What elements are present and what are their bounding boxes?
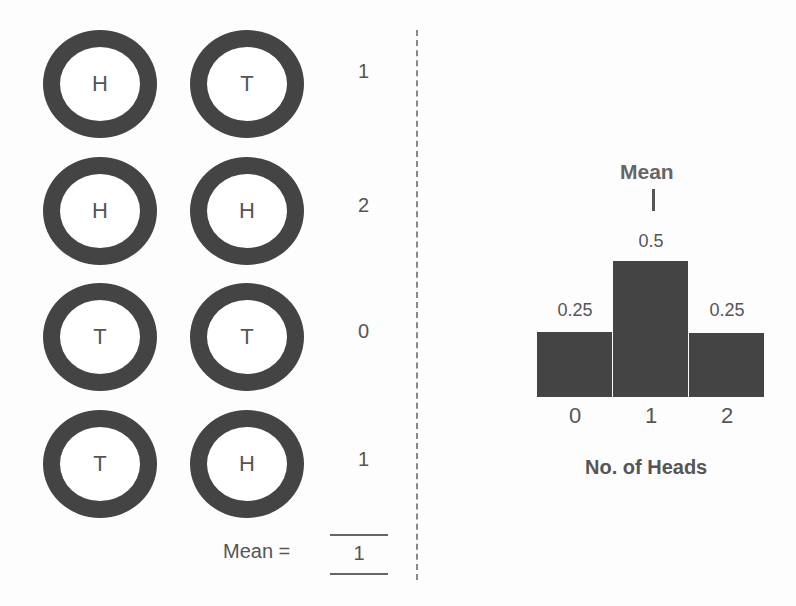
x-axis-label: No. of Heads: [585, 456, 707, 479]
coin-r3-c2: T: [190, 283, 304, 391]
coin-face: H: [92, 71, 108, 97]
heads-count-r4: 1: [358, 448, 369, 471]
mean-marker-label: Mean: [620, 160, 674, 184]
x-tick-1: 1: [613, 403, 689, 429]
x-tick-2: 2: [689, 403, 765, 429]
coin-face: H: [239, 198, 255, 224]
heads-count-r2: 2: [358, 194, 369, 217]
coin-face: H: [239, 451, 255, 477]
bar-label-1: 0.5: [613, 231, 689, 252]
x-tick-0: 0: [537, 403, 613, 429]
mean-label: Mean =: [223, 540, 290, 563]
mean-value: 1: [330, 534, 388, 575]
coin-r2-c1: H: [43, 157, 157, 265]
coin-r2-c2: H: [190, 157, 304, 265]
coin-r4-c1: T: [43, 410, 157, 518]
mean-marker-tick: [652, 189, 655, 211]
heads-count-r3: 0: [358, 320, 369, 343]
bar-2: [689, 333, 764, 397]
coin-face: T: [93, 451, 106, 477]
dashed-divider: [416, 30, 418, 580]
heads-count-r1: 1: [358, 60, 369, 83]
bar-label-2: 0.25: [689, 300, 765, 321]
coin-r4-c2: H: [190, 410, 304, 518]
bar-1: [613, 261, 688, 397]
coin-face: T: [240, 71, 253, 97]
bar-0: [537, 332, 612, 397]
coin-r3-c1: T: [43, 283, 157, 391]
bar-label-0: 0.25: [537, 300, 613, 321]
coin-r1-c1: H: [43, 30, 157, 138]
coin-r1-c2: T: [190, 30, 304, 138]
coin-face: H: [92, 198, 108, 224]
coin-face: T: [93, 324, 106, 350]
coin-face: T: [240, 324, 253, 350]
